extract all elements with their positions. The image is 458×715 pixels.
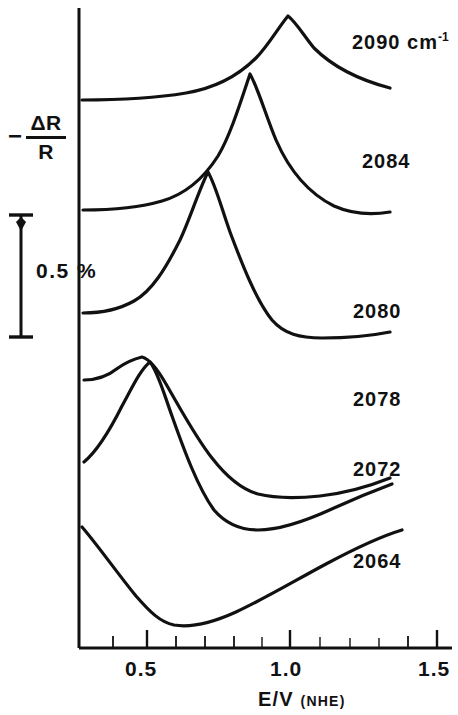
series-label-2090-exponent: -1 bbox=[438, 30, 449, 44]
scale-bar-arrowhead bbox=[16, 217, 26, 231]
curve-2080 bbox=[83, 172, 390, 338]
series-label-2064: 2064 bbox=[353, 550, 402, 573]
curve-2078 bbox=[84, 357, 390, 498]
series-label-2090: 2090 cm-1 bbox=[352, 30, 449, 54]
y-axis-fraction: ΔR R bbox=[26, 112, 66, 163]
y-axis-label: − ΔR R bbox=[8, 112, 66, 163]
y-axis-minus-sign: − bbox=[8, 124, 22, 148]
plot-canvas bbox=[0, 0, 458, 715]
x-tick-label-0-5: 0.5 bbox=[125, 657, 157, 681]
x-axis-title-main: E/V bbox=[258, 688, 294, 710]
curve-2072 bbox=[84, 362, 392, 530]
series-label-2090-text: 2090 cm bbox=[352, 31, 438, 53]
y-axis-numerator: ΔR bbox=[30, 112, 61, 134]
x-axis-title: E/V (NHE) bbox=[258, 688, 346, 711]
curve-2084 bbox=[83, 74, 390, 214]
x-tick-label-1-0: 1.0 bbox=[270, 657, 302, 681]
scale-bar bbox=[9, 215, 33, 337]
x-axis-title-reference: (NHE) bbox=[301, 693, 346, 709]
series-label-2072: 2072 bbox=[353, 458, 402, 481]
fraction-bar bbox=[26, 136, 66, 139]
series-label-2080: 2080 bbox=[353, 300, 402, 323]
x-tick-label-1-5: 1.5 bbox=[418, 657, 450, 681]
x-tick-marks bbox=[113, 630, 437, 648]
series-label-2084: 2084 bbox=[362, 150, 411, 173]
scale-bar-label: 0.5 % bbox=[36, 259, 97, 283]
series-label-2078: 2078 bbox=[353, 388, 402, 411]
curve-2064 bbox=[82, 527, 402, 626]
figure-container: − ΔR R 0.5 % 2090 cm-1 2084 2080 2078 20… bbox=[0, 0, 458, 715]
y-axis-denominator: R bbox=[38, 141, 54, 163]
curve-2090 bbox=[82, 16, 390, 100]
